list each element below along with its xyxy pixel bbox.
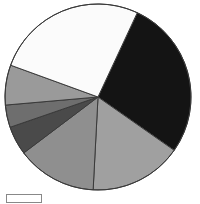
pie-chart-figure — [0, 0, 200, 204]
legend — [6, 194, 44, 204]
pie-chart-svg — [0, 0, 200, 204]
legend-swatch — [6, 194, 42, 203]
pie-slice-group — [5, 4, 191, 190]
